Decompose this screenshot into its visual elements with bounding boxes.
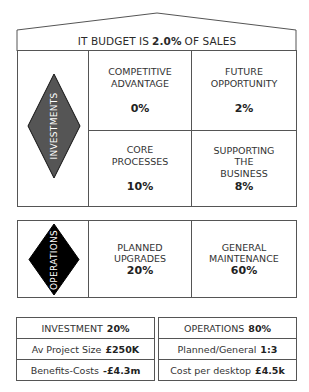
title-prefix: IT BUDGET IS <box>78 35 149 47</box>
quadrant-title: BUSINESS <box>220 168 267 180</box>
summary-value: 20% <box>107 323 130 334</box>
cell-value: 60% <box>231 265 257 277</box>
summary-label: Av Project Size <box>32 344 102 355</box>
quadrant-title: CORE <box>127 144 154 156</box>
title-suffix: OF SALES <box>185 35 237 47</box>
operations-summary-table: OPERATIONS 80% Planned/General 1:3 Cost … <box>158 317 297 381</box>
title-value: 2.0% <box>152 35 182 47</box>
quadrant-title: THE <box>235 156 254 168</box>
quadrant-value: 10% <box>127 181 153 193</box>
quadrant-value: 2% <box>235 103 254 115</box>
investments-label: INVESTMENTS <box>49 92 59 159</box>
operations-label: OPERATIONS <box>49 229 59 289</box>
quadrant-core-processes: CORE PROCESSES 10% <box>89 131 191 206</box>
summary-row: Av Project Size £250K <box>17 339 154 360</box>
cell-general-maintenance: GENERAL MAINTENANCE 60% <box>192 221 296 297</box>
summary-value: 1:3 <box>260 344 277 355</box>
investments-grid: INVESTMENTS COMPETITIVE ADVANTAGE 0% FUT… <box>17 50 297 207</box>
summary-row: OPERATIONS 80% <box>159 318 296 339</box>
cell-planned-upgrades: PLANNED UPGRADES 20% <box>89 221 191 297</box>
quadrant-title: COMPETITIVE <box>108 66 172 78</box>
summary-label: OPERATIONS <box>184 323 244 334</box>
quadrant-value: 8% <box>235 181 254 193</box>
operations-grid: OPERATIONS PLANNED UPGRADES 20% GENERAL … <box>17 220 297 298</box>
investment-summary-table: INVESTMENT 20% Av Project Size £250K Ben… <box>16 317 155 381</box>
quadrant-competitive-advantage: COMPETITIVE ADVANTAGE 0% <box>89 51 191 130</box>
quadrant-title: OPPORTUNITY <box>211 78 278 90</box>
cell-value: 20% <box>127 265 153 277</box>
budget-title: IT BUDGET IS 2.0% OF SALES <box>17 30 297 51</box>
summary-label: INVESTMENT <box>41 323 102 334</box>
investments-diamond: INVESTMENTS <box>27 73 81 179</box>
quadrant-title: PROCESSES <box>112 156 169 168</box>
summary-row: INVESTMENT 20% <box>17 318 154 339</box>
quadrant-title: ADVANTAGE <box>111 78 169 90</box>
cell-title: GENERAL <box>222 242 266 254</box>
summary-value: £250K <box>105 344 139 355</box>
summary-row: Planned/General 1:3 <box>159 339 296 360</box>
summary-label: Planned/General <box>178 344 257 355</box>
quadrant-future-opportunity: FUTURE OPPORTUNITY 2% <box>192 51 296 130</box>
quadrant-supporting-the-business: SUPPORTING THE BUSINESS 8% <box>192 131 296 206</box>
quadrant-title: SUPPORTING <box>214 145 275 157</box>
summary-row: Benefits-Costs -£4.3m <box>17 360 154 381</box>
operations-diamond: OPERATIONS <box>28 223 80 296</box>
summary-value: 80% <box>248 323 271 334</box>
summary-value: -£4.3m <box>103 365 140 376</box>
cell-title: PLANNED <box>117 242 162 254</box>
summary-label: Cost per desktop <box>170 365 251 376</box>
summary-value: £4.5k <box>255 365 285 376</box>
summary-label: Benefits-Costs <box>31 365 99 376</box>
quadrant-value: 0% <box>131 103 150 115</box>
quadrant-title: FUTURE <box>225 66 263 78</box>
summary-row: Cost per desktop £4.5k <box>159 360 296 381</box>
